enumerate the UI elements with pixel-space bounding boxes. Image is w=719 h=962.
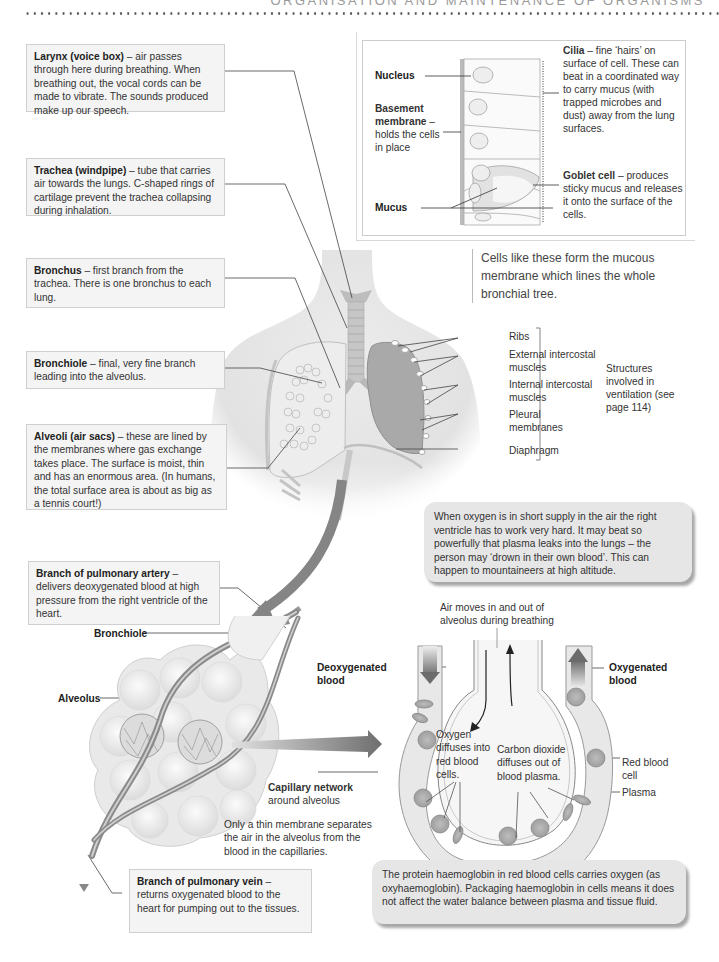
air-movement-note: Air moves in and out of alveolus during … — [440, 601, 580, 628]
torso-silhouette — [205, 250, 495, 530]
label-nucleus: Nucleus — [375, 69, 415, 82]
label-external-intercostal: External intercostal muscles — [509, 348, 599, 374]
pulmonary-artery-term: Branch of pulmonary artery — [36, 568, 170, 579]
alveoli-term: Alveoli (air sacs) — [34, 431, 115, 442]
label-basement-membrane: Basement membrane – holds the cells in p… — [375, 102, 447, 154]
label-mucus: Mucus — [375, 201, 407, 214]
bronchus-term: Bronchus — [34, 265, 82, 276]
basement-term: Basement membrane — [375, 103, 427, 127]
box-pulmonary-artery: Branch of pulmonary artery – delivers de… — [28, 561, 220, 625]
trachea-term: Trachea (windpipe) — [34, 165, 126, 176]
membrane-note: Only a thin membrane separates the air i… — [224, 818, 374, 858]
label-oxygen-diffusion: Oxygen diffuses into red blood cells. — [436, 728, 494, 782]
callout-haemoglobin: The protein haemoglobin in red blood cel… — [372, 860, 686, 924]
label-deoxygenated-blood: Deoxygenated blood — [317, 661, 387, 687]
capillary-desc: around alveolus — [268, 795, 340, 806]
label-oxygenated-blood: Oxygenated blood — [609, 661, 679, 687]
label-diaphragm: Diaphragm — [509, 444, 559, 457]
box-pulmonary-vein: Branch of pulmonary vein – returns oxyge… — [129, 869, 312, 933]
larynx-term: Larynx (voice box) — [34, 51, 124, 62]
label-plasma: Plasma — [622, 786, 656, 799]
label-red-blood-cell: Red blood cell — [622, 756, 682, 782]
box-bronchiole: Bronchiole – final, very fine branch lea… — [26, 351, 225, 389]
cilia-inset: Nucleus Basement membrane – holds the ce… — [362, 40, 686, 236]
pulmonary-vein-term: Branch of pulmonary vein — [137, 876, 263, 887]
label-goblet-cell: Goblet cell – produces sticky mucus and … — [563, 169, 683, 221]
label-cilia: Cilia – fine ‘hairs’ on surface of cell.… — [563, 44, 681, 135]
mucous-membrane-caption: Cells like these form the mucous membran… — [472, 249, 691, 303]
callout-altitude: When oxygen is in short supply in the ai… — [424, 502, 692, 582]
label-bronchiole: Bronchiole — [94, 627, 147, 640]
box-trachea: Trachea (windpipe) – tube that carries a… — [26, 158, 225, 216]
label-internal-intercostal: Internal intercostal muscles — [509, 378, 599, 404]
alveoli-desc: – these are lined by the membranes where… — [34, 431, 215, 509]
box-larynx: Larynx (voice box) – air passes through … — [26, 44, 225, 112]
label-co2-diffusion: Carbon dioxide diffuses out of blood pla… — [497, 743, 569, 783]
label-ribs: Ribs — [509, 330, 529, 343]
label-alveolus: Alveolus — [58, 692, 100, 705]
label-capillary-network: Capillary networkaround alveolus — [268, 781, 353, 807]
label-pleural-membranes: Pleural membranes — [509, 408, 579, 434]
capillary-term: Capillary network — [268, 782, 353, 793]
cilia-desc: – fine ‘hairs’ on surface of cell. These… — [563, 45, 679, 134]
goblet-term: Goblet cell — [563, 170, 615, 181]
box-bronchus: Bronchus – first branch from the trachea… — [26, 258, 225, 308]
cilia-term: Cilia — [563, 45, 585, 56]
box-alveoli: Alveoli (air sacs) – these are lined by … — [26, 424, 227, 510]
label-ventilation-group: Structures involved in ventilation (see … — [606, 362, 686, 414]
bronchiole-term: Bronchiole — [34, 358, 87, 369]
